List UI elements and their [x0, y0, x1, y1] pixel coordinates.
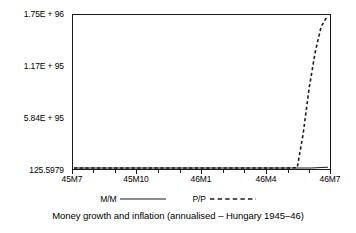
dashed-line-swatch — [210, 196, 256, 202]
x-axis-tick-mark-minor — [115, 170, 116, 173]
x-axis-tick-mark-minor — [180, 170, 181, 173]
plot-area — [72, 14, 331, 170]
y-axis-tick-label-1: 1.75E + 96 — [0, 10, 64, 19]
x-axis-tick-mark-minor — [93, 170, 94, 173]
x-axis-tick-label-4: 46M4 — [236, 174, 296, 184]
series-line-pp — [74, 16, 327, 168]
plot-series-svg — [73, 15, 330, 169]
legend-label-mm: M/M — [100, 194, 116, 204]
chart-caption: Money growth and inflation (annualised –… — [0, 210, 356, 222]
x-axis-tick-label-3: 46M1 — [171, 174, 231, 184]
x-axis-tick-mark-minor — [223, 170, 224, 173]
x-axis-tick-mark-minor — [158, 170, 159, 173]
chart-figure: 1.75E + 96 1.17E + 95 5.84E + 95 125.597… — [0, 0, 356, 233]
x-axis-tick-label-1: 45M7 — [42, 174, 102, 184]
chart-legend: M/M P/P — [0, 192, 356, 206]
legend-entry-mm: M/M — [100, 194, 166, 204]
x-axis-tick-label-5: 46M7 — [300, 174, 356, 184]
x-axis-tick-mark-minor — [244, 170, 245, 173]
x-axis-tick-mark-minor — [288, 170, 289, 173]
y-axis-tick-label-2: 1.17E + 95 — [0, 62, 64, 71]
legend-label-pp: P/P — [192, 194, 205, 204]
x-axis-tick-label-2: 45M10 — [106, 174, 166, 184]
x-axis-tick-mark-minor — [309, 170, 310, 173]
legend-entry-pp: P/P — [192, 194, 255, 204]
solid-line-swatch — [120, 196, 166, 202]
y-axis-tick-label-3: 5.84E + 95 — [0, 114, 64, 123]
